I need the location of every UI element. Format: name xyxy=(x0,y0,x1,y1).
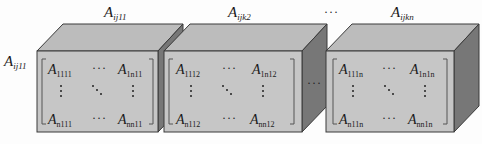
box-3-cell-bot-right: Ann1n xyxy=(408,111,433,129)
label-base: A xyxy=(4,53,13,69)
top-ellipsis: ··· xyxy=(324,6,339,18)
top-label-2: Aijk2 xyxy=(228,4,251,22)
label-sub: ijkn xyxy=(400,12,414,22)
box-3-cell-top-right: A1n1n xyxy=(410,61,435,79)
label-sub: ij11 xyxy=(13,61,26,71)
tensor-diagram: Aij11 Aijk2 ··· Aijkn Aij11 ··· A1111 ··… xyxy=(0,0,482,144)
box-2-vdots-left xyxy=(190,85,192,100)
box-3-cell-top-left: A111n xyxy=(339,61,363,79)
label-base: A xyxy=(228,4,237,20)
box-2-cell-top-right: A1n12 xyxy=(252,61,277,79)
box-3-hdots-top: ··· xyxy=(382,62,397,74)
label-sub: ijk2 xyxy=(237,12,251,22)
box-2-cell-bot-left: An112 xyxy=(176,111,200,129)
box-1-vdots-left xyxy=(60,85,62,100)
box-2-top-face xyxy=(164,24,327,51)
box-1-cell-top-right: A1n11 xyxy=(118,61,142,79)
box-3-vdots-right xyxy=(424,85,426,100)
box-1-vdots-right xyxy=(132,85,134,100)
box-3-cell-bot-left: An11n xyxy=(339,111,363,129)
box-2-vdots-right xyxy=(262,85,264,100)
box-1-cell-top-left: A1111 xyxy=(48,61,72,79)
box-3-hdots-bottom: ··· xyxy=(382,112,397,124)
box-3-vdots-left xyxy=(352,85,354,100)
box-2-cell-top-left: A1112 xyxy=(176,61,200,79)
between-boxes-ellipsis: ··· xyxy=(307,77,322,89)
box-1-hdots-bottom: ··· xyxy=(92,112,107,124)
label-base: A xyxy=(391,4,400,20)
box-1-hdots-top: ··· xyxy=(92,62,107,74)
box-2-hdots-top: ··· xyxy=(222,62,237,74)
left-label: Aij11 xyxy=(4,53,27,71)
top-label-1: Aij11 xyxy=(104,4,127,22)
box-2-cell-bot-right: Ann12 xyxy=(250,111,275,129)
box-1-cell-bot-right: Ann11 xyxy=(118,111,142,129)
box-1-cell-bot-left: An111 xyxy=(48,111,72,129)
box-2-hdots-bottom: ··· xyxy=(222,112,237,124)
label-base: A xyxy=(104,4,113,20)
label-sub: ij11 xyxy=(113,12,126,22)
top-label-n: Aijkn xyxy=(391,4,414,22)
box-3-top-face xyxy=(326,24,479,51)
